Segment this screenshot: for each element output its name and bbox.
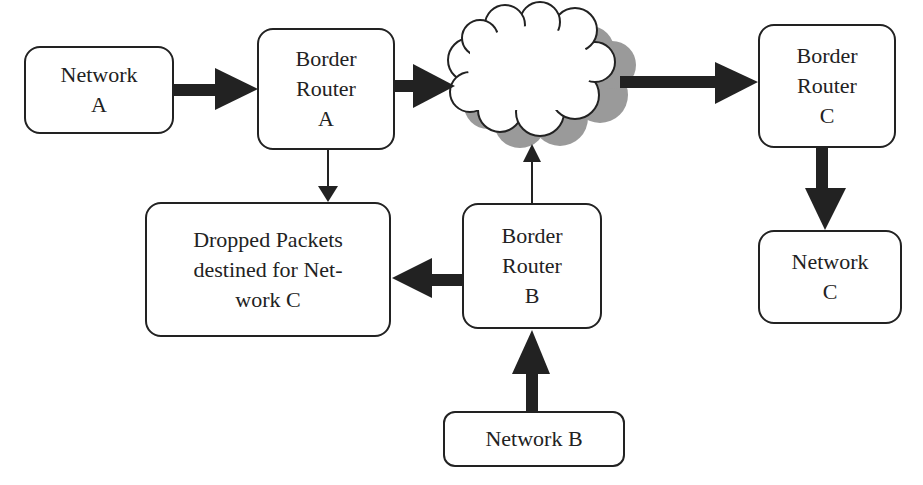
node-border-router-a-label: Border Router A	[295, 44, 356, 134]
node-border-router-b-label: Border Router B	[501, 221, 562, 311]
node-network-b: Network B	[443, 411, 625, 467]
node-border-router-b: Border Router B	[462, 203, 602, 329]
node-border-router-c-label: Border Router C	[796, 41, 857, 131]
node-border-router-a: Border Router A	[257, 28, 395, 150]
node-network-b-label: Network B	[485, 424, 582, 454]
node-dropped-packets: Dropped Packets destined for Net- work C	[145, 202, 391, 337]
node-network-c: Network C	[758, 230, 902, 324]
node-network-a: Network A	[24, 46, 174, 134]
node-network-c-label: Network C	[792, 247, 869, 307]
network-diagram: Network A Border Router A Border Router …	[0, 0, 923, 485]
node-border-router-c: Border Router C	[758, 24, 896, 148]
node-dropped-packets-label: Dropped Packets destined for Net- work C	[193, 225, 343, 315]
node-network-a-label: Network A	[61, 60, 138, 120]
thin-arrows	[318, 144, 541, 205]
